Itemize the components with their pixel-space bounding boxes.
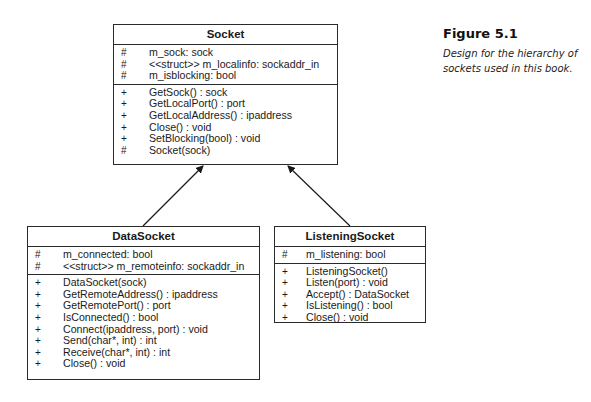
method-text: GetLocalAddress() : ipaddress [149, 110, 292, 122]
attributes-section: #m_listening: bool [275, 247, 425, 264]
caption-line: Design for the hierarchy of [443, 46, 588, 61]
method-text: SetBlocking(bool) : void [149, 133, 260, 145]
visibility-symbol: # [121, 145, 133, 157]
method-row: +GetLocalAddress() : ipaddress [114, 110, 337, 122]
visibility-symbol: + [35, 312, 47, 324]
visibility-symbol: + [35, 347, 47, 359]
methods-section: +DataSocket(sock) +GetRemoteAddress() : … [28, 275, 259, 372]
attribute-text: <<struct>> m_remoteinfo: sockaddr_in [63, 261, 244, 273]
figure-description: Design for the hierarchy of sockets used… [443, 46, 588, 76]
visibility-symbol: # [121, 70, 133, 82]
method-row: +Send(char*, int) : int [28, 335, 259, 347]
class-name: Socket [114, 25, 337, 45]
attribute-row: #m_connected: bool [28, 249, 259, 261]
attribute-row: #m_listening: bool [275, 249, 425, 261]
attribute-text: m_isblocking: bool [149, 70, 236, 82]
attribute-row: #m_sock: sock [114, 47, 337, 59]
attribute-text: m_connected: bool [63, 249, 153, 261]
visibility-symbol: + [35, 277, 47, 289]
visibility-symbol: + [121, 98, 133, 110]
caption-line: sockets used in this book. [443, 61, 588, 76]
visibility-symbol: + [121, 122, 133, 134]
method-row: #Socket(sock) [114, 145, 337, 157]
visibility-symbol: + [35, 300, 47, 312]
visibility-symbol: + [35, 358, 47, 370]
method-row: +IsConnected() : bool [28, 312, 259, 324]
class-name: DataSocket [28, 227, 259, 247]
attributes-section: #m_sock: sock #<<struct>> m_localinfo: s… [114, 45, 337, 85]
class-socket: Socket #m_sock: sock #<<struct>> m_local… [113, 24, 338, 165]
class-name: ListeningSocket [275, 227, 425, 247]
method-text: Close() : void [63, 358, 125, 370]
method-row: +Close() : void [275, 312, 425, 324]
visibility-symbol: + [35, 324, 47, 336]
method-row: +Close() : void [28, 358, 259, 370]
figure-caption: Figure 5.1 Design for the hierarchy of s… [443, 26, 588, 76]
figure-label: Figure 5.1 [443, 26, 588, 41]
visibility-symbol: + [282, 300, 294, 312]
class-listeningsocket: ListeningSocket #m_listening: bool +List… [274, 226, 426, 323]
attribute-text: m_listening: bool [306, 249, 386, 261]
visibility-symbol: # [121, 59, 133, 71]
class-datasocket: DataSocket #m_connected: bool #<<struct>… [27, 226, 260, 380]
attribute-row: #<<struct>> m_remoteinfo: sockaddr_in [28, 261, 259, 273]
attribute-text: m_sock: sock [149, 47, 213, 59]
datasocket-to-socket-arrow [143, 166, 203, 226]
listeningsocket-to-socket-arrow [288, 166, 350, 226]
attribute-row: #m_isblocking: bool [114, 70, 337, 82]
visibility-symbol: # [35, 249, 47, 261]
visibility-symbol: + [35, 289, 47, 301]
method-text: Send(char*, int) : int [63, 335, 157, 347]
method-text: IsConnected() : bool [63, 312, 158, 324]
method-text: Close() : void [306, 312, 368, 324]
visibility-symbol: + [121, 133, 133, 145]
visibility-symbol: + [35, 335, 47, 347]
methods-section: +ListeningSocket() +Listen(port) : void … [275, 264, 425, 326]
visibility-symbol: + [121, 87, 133, 99]
visibility-symbol: + [282, 312, 294, 324]
visibility-symbol: # [121, 47, 133, 59]
method-row: +SetBlocking(bool) : void [114, 133, 337, 145]
visibility-symbol: + [121, 110, 133, 122]
visibility-symbol: # [35, 261, 47, 273]
visibility-symbol: + [282, 289, 294, 301]
method-text: Socket(sock) [149, 145, 210, 157]
attributes-section: #m_connected: bool #<<struct>> m_remotei… [28, 247, 259, 275]
visibility-symbol: # [282, 249, 294, 261]
visibility-symbol: + [282, 277, 294, 289]
visibility-symbol: + [282, 266, 294, 278]
methods-section: +GetSock() : sock +GetLocalPort() : port… [114, 85, 337, 159]
